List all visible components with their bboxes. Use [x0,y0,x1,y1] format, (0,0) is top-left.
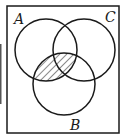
label-c: C [105,9,116,25]
circle-c [53,19,115,81]
left-edge-mark [0,44,2,104]
label-a: A [12,11,24,27]
venn-diagram: A C B [0,0,125,137]
label-b: B [69,117,80,133]
